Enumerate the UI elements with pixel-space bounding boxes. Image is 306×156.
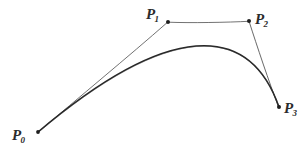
control-point-p1	[166, 20, 170, 24]
control-point-label-p3: P3	[284, 100, 297, 118]
bezier-curve-ink-overlay	[38, 46, 279, 132]
bezier-curve	[38, 46, 279, 132]
control-point-label-p2: P2	[255, 11, 268, 29]
control-point-p0	[36, 130, 40, 134]
bezier-figure: P0 P1 P2 P3	[0, 0, 306, 156]
control-point-p2	[247, 19, 251, 23]
control-point-p3	[277, 105, 281, 109]
control-point-label-p1: P1	[146, 6, 159, 24]
control-segment-p1-p2	[169, 21, 249, 22]
label-p2-subscript: 2	[263, 19, 267, 29]
label-p3-subscript: 3	[292, 108, 296, 118]
label-p1-subscript: 1	[154, 14, 158, 24]
label-p0-subscript: 0	[20, 135, 24, 145]
control-point-label-p0: P0	[12, 127, 25, 145]
